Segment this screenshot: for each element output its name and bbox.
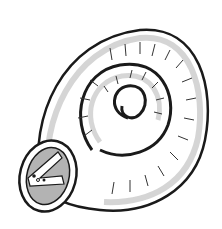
illustration-canvas (0, 0, 222, 229)
shell-illustration (0, 0, 222, 229)
